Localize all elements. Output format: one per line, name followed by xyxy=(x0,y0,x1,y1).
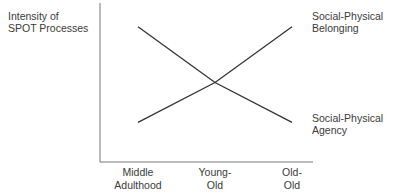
series-layer xyxy=(138,27,292,123)
x-tick-label-old-old: Old- Old xyxy=(252,166,332,192)
series-label-line: Social-Physical xyxy=(312,10,383,22)
x-tick-line: Old xyxy=(252,179,332,192)
x-tick-label-middle-adulthood: Middle Adulthood xyxy=(98,166,178,192)
x-tick-label-young-old: Young- Old xyxy=(175,166,255,192)
series-line-social-physical-belonging xyxy=(138,27,292,123)
series-label-line: Belonging xyxy=(312,22,383,34)
x-tick-line: Old xyxy=(175,179,255,192)
y-axis-label-line: Intensity of xyxy=(8,10,88,22)
x-tick-line: Middle xyxy=(98,166,178,179)
series-label-agency: Social-Physical Agency xyxy=(312,112,383,136)
x-tick-line: Old- xyxy=(252,166,332,179)
series-label-line: Social-Physical xyxy=(312,112,383,124)
y-axis-label-line: SPOT Processes xyxy=(8,22,88,34)
series-label-belonging: Social-Physical Belonging xyxy=(312,10,383,34)
x-tick-line: Adulthood xyxy=(98,179,178,192)
x-tick-line: Young- xyxy=(175,166,255,179)
series-line-social-physical-agency xyxy=(138,27,292,123)
y-axis-label: Intensity of SPOT Processes xyxy=(8,10,88,34)
series-label-line: Agency xyxy=(312,124,383,136)
